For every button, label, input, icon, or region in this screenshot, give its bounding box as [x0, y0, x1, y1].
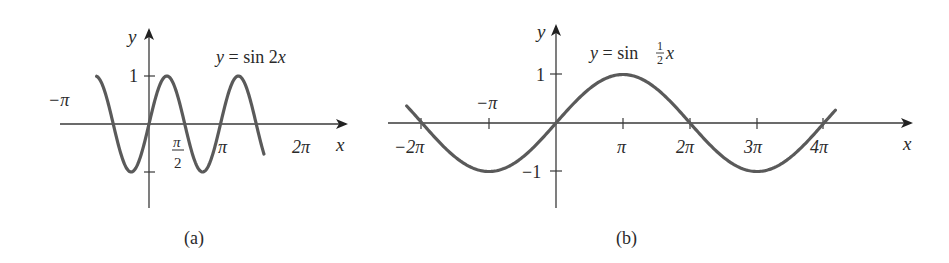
eq-x: x [665, 43, 674, 63]
x-tick-label-4pi: 4π [810, 137, 829, 157]
x-tick-label-neg-pi: −π [476, 93, 498, 113]
x-tick-label-neg-2pi: −2π [394, 137, 425, 157]
y-axis-label: y [126, 26, 137, 47]
x-axis-label: x [335, 134, 345, 155]
x-tick-label-pi: π [218, 137, 228, 157]
equation-label: y = sin [588, 43, 638, 63]
x-axis-label: x [902, 133, 912, 154]
y-tick-label-neg1: −1 [522, 162, 541, 182]
x-tick-label-3pi: 3π [743, 137, 763, 157]
y-axis-label: y [535, 21, 546, 42]
eq-y: y [588, 43, 598, 63]
y-tick-label-1: 1 [129, 66, 138, 86]
panel-caption-a: (a) [184, 228, 204, 249]
panel-b: y x 1 −1 −2π −π π 2π 3π 4π y = sin 1 2 x… [388, 21, 912, 249]
y-tick-label-1: 1 [536, 65, 545, 85]
x-tick-label-2pi: 2π [292, 137, 311, 157]
panel-caption-b: (b) [616, 228, 637, 249]
eq-x: x [277, 47, 286, 67]
panel-a: y x 1 −π π 2 π 2π y = sin 2x (a) [48, 26, 346, 249]
x-tick-label-2pi: 2π [676, 137, 695, 157]
eq-rest: = sin 2 [224, 47, 278, 67]
x-tick-label-neg-pi: −π [48, 90, 70, 110]
eq-rest: = sin [598, 43, 638, 63]
x-tick-label-pi-over-2-num: π [173, 134, 181, 150]
eq-frac-den: 2 [657, 53, 663, 67]
figure: y x 1 −π π 2 π 2π y = sin 2x (a) y x 1 − [0, 0, 949, 263]
x-tick-label-pi: π [617, 137, 627, 157]
equation-label: y = sin 2x [214, 47, 286, 67]
eq-frac-num: 1 [657, 39, 663, 53]
eq-y: y [214, 47, 224, 67]
x-tick-label-pi-over-2-den: 2 [174, 155, 182, 171]
